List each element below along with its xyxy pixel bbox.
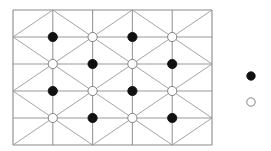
- diagonal-line: [93, 10, 133, 37]
- lattice-diagram: [0, 0, 271, 151]
- diagonal-line: [13, 91, 53, 118]
- filled-node-icon: [168, 113, 177, 122]
- diagonal-line: [132, 118, 172, 145]
- filled-node-icon: [48, 86, 57, 95]
- diagonal-line: [172, 64, 212, 91]
- diagonal-line: [13, 10, 53, 37]
- diagonal-line: [53, 10, 93, 37]
- diagonal-line: [53, 91, 93, 118]
- filled-node-icon: [48, 32, 57, 41]
- legend-open-circle-icon: [247, 98, 255, 106]
- diagonal-line: [13, 118, 53, 145]
- open-node-icon: [168, 86, 177, 95]
- diagonal-line: [172, 10, 212, 37]
- open-node-icon: [88, 86, 97, 95]
- diagonal-lines: [13, 10, 212, 145]
- open-node-icon: [48, 113, 57, 122]
- open-node-icon: [88, 32, 97, 41]
- diagonal-line: [53, 37, 93, 64]
- diagonal-line: [172, 91, 212, 118]
- filled-node-icon: [168, 59, 177, 68]
- legend-filled-circle-icon: [247, 72, 255, 80]
- diagonal-line: [93, 91, 133, 118]
- diagonal-line: [13, 64, 53, 91]
- filled-node-icon: [88, 113, 97, 122]
- open-node-icon: [128, 59, 137, 68]
- open-node-icon: [48, 59, 57, 68]
- legend: [247, 72, 255, 106]
- diagonal-line: [13, 37, 53, 64]
- diagonal-line: [53, 118, 93, 145]
- open-node-icon: [128, 113, 137, 122]
- diagonal-line: [132, 10, 172, 37]
- filled-node-icon: [128, 86, 137, 95]
- filled-node-icon: [128, 32, 137, 41]
- diagonal-line: [93, 118, 133, 145]
- diagonal-line: [172, 118, 212, 145]
- diagonal-line: [93, 37, 133, 64]
- diagonal-line: [172, 37, 212, 64]
- diagonal-line: [132, 64, 172, 91]
- diagonal-line: [93, 64, 133, 91]
- filled-node-icon: [88, 59, 97, 68]
- diagonal-line: [132, 91, 172, 118]
- open-node-icon: [168, 32, 177, 41]
- diagonal-line: [53, 64, 93, 91]
- diagonal-line: [132, 37, 172, 64]
